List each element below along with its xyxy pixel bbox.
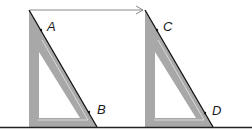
set-square-first (29, 10, 97, 127)
edge-line-ab (29, 10, 97, 127)
point-d-dot (204, 112, 206, 114)
point-a-dot (40, 29, 42, 31)
label-c: C (163, 19, 173, 34)
edge-line-cd (145, 10, 213, 127)
slide-arrow (30, 6, 143, 14)
label-a: A (46, 19, 56, 34)
set-square-second (145, 10, 213, 127)
label-d: D (212, 103, 221, 118)
label-b: B (97, 102, 106, 117)
parallel-lines-diagram: A B C D (0, 0, 252, 130)
point-c-dot (156, 29, 158, 31)
point-b-dot (88, 111, 90, 113)
